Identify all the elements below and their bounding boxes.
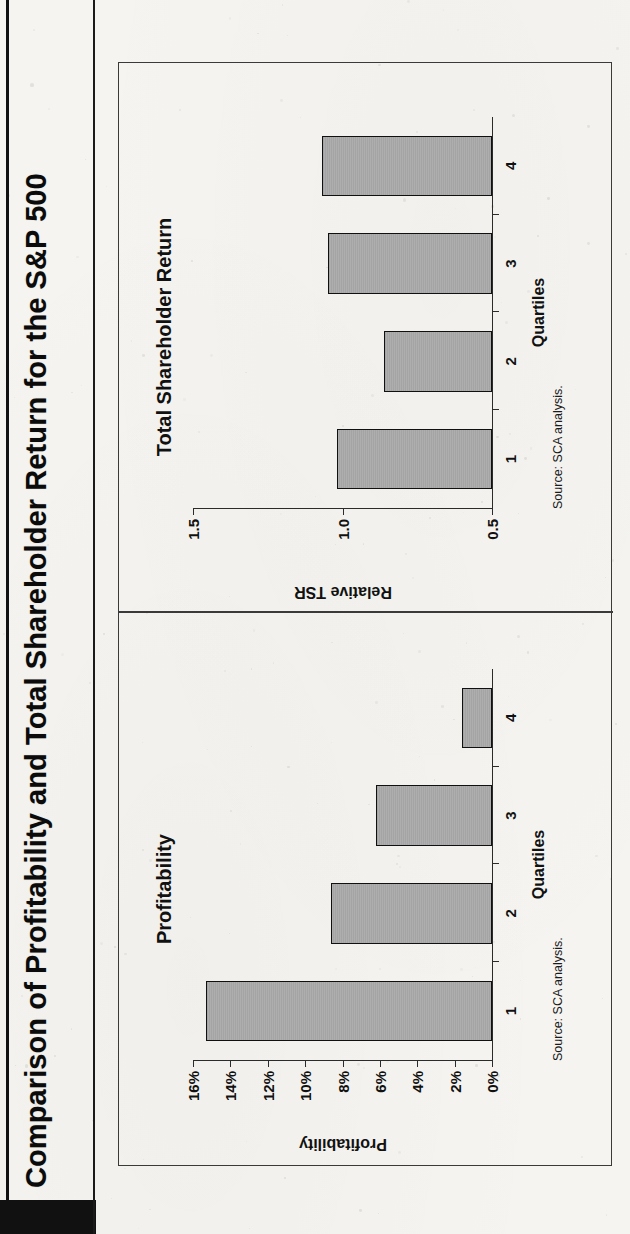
y-axis-tick-profitability (492, 1060, 493, 1067)
source-note-profitability: Source: SCA analysis. (551, 937, 565, 1061)
y-axis-tick-profitability (268, 1060, 269, 1067)
scan-speck (282, 4, 283, 5)
y-axis-tick-tsr (343, 508, 344, 515)
y-axis-tick-profitability (380, 1060, 381, 1067)
scan-speck (284, 1177, 286, 1179)
scan-speck (103, 633, 105, 635)
y-axis-label-tsr: 0.5 (484, 519, 501, 540)
page-header: Comparison of Profitability and Total Sh… (0, 0, 96, 1234)
y-axis-tick-profitability (230, 1060, 231, 1067)
scan-speck (106, 186, 107, 187)
scan-speck (359, 1209, 362, 1212)
scan-speck (443, 9, 444, 10)
page-title: Comparison of Profitability and Total Sh… (20, 173, 53, 1188)
y-axis-tick-tsr (492, 508, 493, 515)
scan-speck (457, 29, 459, 31)
header-top-rule (6, 0, 9, 1234)
panel-total-shareholder-return: Total Shareholder Return Relative TSR Qu… (119, 61, 613, 613)
y-axis-label-profitability: 12% (259, 1071, 276, 1101)
y-axis-label-tsr: 1.0 (334, 519, 351, 540)
y-axis-tick-tsr (193, 508, 194, 515)
y-axis-title-profitability: Profitability (298, 1135, 386, 1153)
y-axis-tick-profitability (305, 1060, 306, 1067)
bar-tsr-q3 (328, 233, 492, 294)
bar-tsr-q1 (337, 429, 492, 490)
x-axis-label-profitability-q1: 1 (502, 1007, 519, 1015)
scan-speck (257, 33, 259, 35)
x-axis-label-tsr-q4: 4 (502, 162, 519, 170)
x-axis-label-profitability-q2: 2 (502, 909, 519, 917)
scanned-page: Comparison of Profitability and Total Sh… (0, 0, 630, 1234)
scan-speck (625, 253, 627, 255)
scan-speck (149, 1209, 150, 1210)
source-note-tsr: Source: SCA analysis. (551, 385, 565, 509)
x-axis-label-tsr-q1: 1 (502, 455, 519, 463)
y-axis-label-profitability: 14% (222, 1071, 239, 1101)
panel-title-tsr: Total Shareholder Return (153, 61, 176, 613)
scan-speck (114, 946, 116, 948)
bar-profitability-q4 (462, 688, 492, 749)
y-axis-label-profitability: 0% (484, 1071, 501, 1093)
bar-tsr-q4 (322, 136, 492, 197)
scan-speck (249, 1228, 251, 1230)
y-axis-tick-profitability (455, 1060, 456, 1067)
bar-profitability-q2 (331, 883, 492, 944)
bar-profitability-q3 (376, 785, 492, 846)
y-axis-title-tsr: Relative TSR (294, 583, 392, 601)
scan-speck (378, 1213, 379, 1214)
x-axis-tick-tsr (492, 214, 499, 215)
plot-area-profitability: Profitability Quartiles 0%2%4%6%8%10%12%… (193, 669, 493, 1061)
scan-speck (229, 17, 232, 20)
panel-profitability: Profitability Profitability Quartiles 0%… (119, 613, 613, 1165)
x-axis-label-profitability-q4: 4 (502, 714, 519, 722)
y-axis-label-profitability: 8% (334, 1071, 351, 1093)
scan-speck (100, 942, 103, 945)
x-axis-label-tsr-q3: 3 (502, 259, 519, 267)
bar-profitability-q1 (206, 981, 492, 1042)
bar-tsr-q2 (384, 331, 492, 392)
x-axis-tick-profitability (492, 961, 499, 962)
charts-frame: Profitability Profitability Quartiles 0%… (118, 62, 612, 1166)
scan-speck (407, 0, 410, 3)
scan-speck (615, 723, 617, 725)
header-black-tab (0, 1200, 96, 1234)
x-axis-label-tsr-q2: 2 (502, 357, 519, 365)
plot-area-tsr: Relative TSR Quartiles 0.51.01.51234 (193, 117, 493, 509)
x-axis-label-profitability-q3: 3 (502, 811, 519, 819)
y-axis-label-profitability: 2% (446, 1071, 463, 1093)
x-axis-tick-profitability (492, 766, 499, 767)
x-axis-tick-profitability (492, 864, 499, 865)
x-axis-title-tsr: Quartiles (530, 278, 548, 347)
scan-speck (616, 47, 619, 50)
y-axis-tick-profitability (193, 1060, 194, 1067)
header-bottom-rule (93, 0, 95, 1234)
y-axis-label-profitability: 6% (371, 1071, 388, 1093)
y-axis-label-tsr: 1.5 (185, 519, 202, 540)
y-axis-tick-profitability (343, 1060, 344, 1067)
y-axis-label-profitability: 4% (409, 1071, 426, 1093)
x-axis-tick-tsr (492, 409, 499, 410)
scan-speck (111, 1198, 112, 1199)
y-axis-label-profitability: 16% (185, 1071, 202, 1101)
y-axis-tick-profitability (417, 1060, 418, 1067)
x-axis-tick-tsr (492, 312, 499, 313)
scan-speck (138, 1228, 139, 1229)
x-axis-title-profitability: Quartiles (530, 830, 548, 899)
scan-speck (287, 35, 288, 36)
panel-title-profitability: Profitability (153, 613, 176, 1165)
scan-speck (606, 1214, 608, 1216)
scan-speck (124, 1168, 126, 1170)
y-axis-label-profitability: 10% (297, 1071, 314, 1101)
